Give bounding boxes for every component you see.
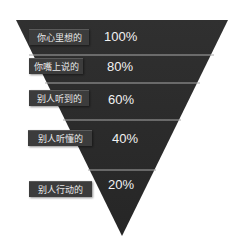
level-percent-2: 80% xyxy=(107,59,133,74)
level-label-5: 别人行动的 xyxy=(29,181,92,197)
level-label-3: 别人听到的 xyxy=(29,90,89,106)
level-label-4: 别人听懂的 xyxy=(28,130,92,146)
level-label-1: 你心里想的 xyxy=(29,29,89,45)
level-percent-3: 60% xyxy=(108,92,134,107)
level-label-2: 你嘴上说的 xyxy=(29,58,83,74)
funnel-shape xyxy=(16,20,228,236)
level-percent-1: 100% xyxy=(104,29,137,44)
level-percent-4: 40% xyxy=(112,131,138,146)
level-percent-5: 20% xyxy=(108,177,134,192)
